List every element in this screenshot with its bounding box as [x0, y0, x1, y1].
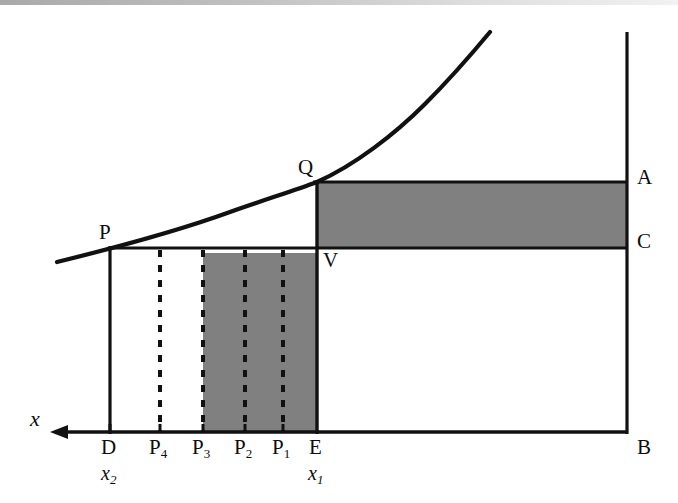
label-partition-P1-base: P — [272, 435, 284, 459]
label-coordinate-x1-sub: 1 — [317, 472, 324, 487]
diagram-canvas — [0, 0, 678, 503]
label-point-E: E — [309, 437, 322, 458]
label-axis-variable-x: x — [30, 408, 40, 430]
label-partition-P1-sub: 1 — [284, 446, 291, 461]
x-axis-arrowhead — [50, 425, 68, 439]
label-partition-P3-base: P — [192, 435, 204, 459]
label-coordinate-x2: x2 — [101, 463, 116, 483]
label-partition-P2-sub: 2 — [246, 446, 253, 461]
label-partition-P4-base: P — [149, 435, 161, 459]
shaded-band-AC — [317, 182, 627, 247]
label-point-V: V — [323, 250, 338, 271]
figure-root: P Q V A C B D E P4 P3 P2 P1 x2 x1 x — [0, 0, 678, 503]
label-point-B: B — [637, 437, 651, 458]
label-partition-P3-sub: 3 — [204, 446, 211, 461]
label-point-D: D — [101, 437, 116, 458]
label-partition-P3: P3 — [192, 437, 210, 458]
label-point-Q: Q — [298, 157, 313, 178]
label-partition-P2-base: P — [234, 435, 246, 459]
label-partition-P1: P1 — [272, 437, 290, 458]
label-coordinate-x1: x1 — [308, 463, 323, 483]
label-point-P: P — [99, 222, 111, 243]
label-point-C: C — [637, 231, 651, 252]
label-point-A: A — [637, 167, 652, 188]
label-partition-P2: P2 — [234, 437, 252, 458]
label-partition-P4: P4 — [149, 437, 167, 458]
label-coordinate-x2-base: x — [101, 462, 110, 484]
label-coordinate-x1-base: x — [308, 462, 317, 484]
label-partition-P4-sub: 4 — [161, 446, 168, 461]
label-coordinate-x2-sub: 2 — [110, 472, 117, 487]
shaded-column-P3-E — [203, 253, 317, 432]
